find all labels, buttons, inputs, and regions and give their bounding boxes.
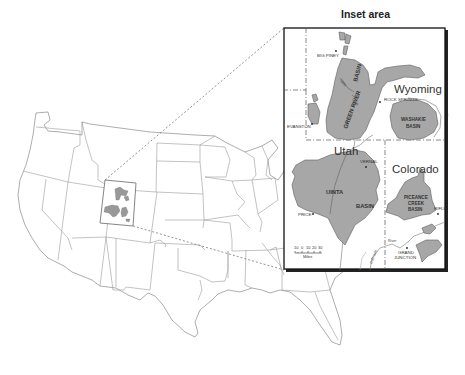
city-rifle: RIFLE (434, 206, 447, 211)
label-piceance: PICEANCE (404, 195, 428, 200)
label-washakie: WASHAKIE (401, 117, 426, 122)
city-grand-junction-2: JUNCTION (394, 255, 416, 260)
label-washakie-basin: BASIN (406, 124, 421, 129)
city-price: PRICE (298, 212, 311, 217)
us-map-figure: Inset area Wyoming (0, 0, 465, 375)
city-vernal: VERNAL (360, 159, 378, 164)
svg-text:20: 20 (312, 245, 317, 250)
label-wyoming: Wyoming (394, 83, 442, 95)
label-piceance-basin: BASIN (408, 207, 423, 212)
city-evanston: EVANSTON (287, 124, 311, 129)
label-colorado: Colorado (392, 163, 439, 175)
leader-line-top (105, 28, 284, 180)
city-rock-springs: ROCK SPRINGS (384, 97, 418, 102)
label-river: River (388, 239, 397, 243)
label-utah: Utah (334, 145, 358, 157)
inset-title: Inset area (341, 8, 390, 20)
label-piceance-creek: CREEK (408, 201, 425, 206)
leader-line-bottom (133, 226, 284, 270)
inset-map: Wyoming Utah Colorado GREEN RIVER BASIN … (284, 28, 448, 272)
scale-unit: Miles (303, 254, 312, 259)
svg-text:10: 10 (306, 245, 311, 250)
svg-text:30: 30 (318, 245, 323, 250)
label-uinta-basin: BASIN (356, 203, 374, 209)
city-big-piney: BIG PINEY (317, 53, 339, 58)
overview-inset-locator (100, 180, 136, 226)
label-uinta: UINTA (326, 189, 344, 195)
svg-text:10: 10 (294, 245, 299, 250)
